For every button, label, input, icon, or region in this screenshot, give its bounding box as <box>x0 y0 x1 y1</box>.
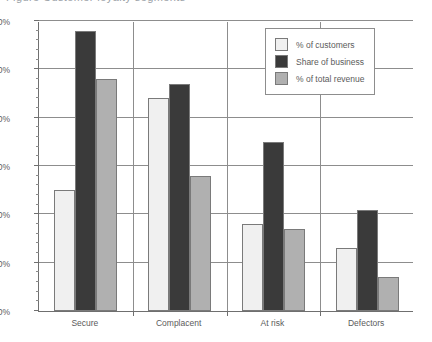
grouped-bar-chart: 0%10%20%30%40%50%60% SecureComplacentAt … <box>0 0 432 342</box>
y-tick-minor-32 <box>36 155 39 156</box>
legend-label-3: % of total revenue <box>296 74 365 84</box>
y-axis-label-40: 40% <box>0 114 10 124</box>
y-tick-major-0 <box>34 310 39 311</box>
y-tick-minor-28 <box>36 175 39 176</box>
y-tick-minor-46 <box>36 88 39 89</box>
y-axis-label-10: 10% <box>0 259 10 269</box>
bar-defectors-series-2 <box>357 210 378 312</box>
bar-complacent-series-3 <box>190 176 211 311</box>
x-tick-3 <box>320 311 321 316</box>
y-tick-major-30 <box>34 165 39 166</box>
chart-legend: % of customersShare of business% of tota… <box>265 28 375 95</box>
y-tick-minor-42 <box>36 107 39 108</box>
y-tick-major-60 <box>34 20 39 21</box>
y-tick-minor-58 <box>36 30 39 31</box>
bar-at-risk-series-2 <box>263 142 284 311</box>
y-tick-major-20 <box>34 213 39 214</box>
legend-swatch-1 <box>275 38 288 51</box>
bar-complacent-series-1 <box>148 98 169 311</box>
legend-item-3: % of total revenue <box>275 70 366 87</box>
y-tick-minor-48 <box>36 78 39 79</box>
x-axis-label-defectors: Defectors <box>348 318 384 328</box>
legend-item-2: Share of business <box>275 53 366 70</box>
y-axis-label-0: 0% <box>0 307 10 317</box>
bar-at-risk-series-1 <box>242 224 263 311</box>
y-tick-minor-6 <box>36 281 39 282</box>
x-axis-label-complacent: Complacent <box>156 318 201 328</box>
y-tick-minor-36 <box>36 136 39 137</box>
bar-at-risk-series-3 <box>284 229 305 311</box>
x-tick-2 <box>227 311 228 316</box>
legend-label-1: % of customers <box>296 40 355 50</box>
y-tick-minor-34 <box>36 146 39 147</box>
x-axis-label-secure: Secure <box>71 318 98 328</box>
bar-secure-series-1 <box>54 190 75 311</box>
y-axis-label-20: 20% <box>0 210 10 220</box>
x-tick-1 <box>133 311 134 316</box>
legend-swatch-3 <box>275 72 288 85</box>
group-separator-2 <box>227 22 228 311</box>
bar-secure-series-3 <box>96 79 117 311</box>
x-axis-label-at-risk: At risk <box>261 318 285 328</box>
y-tick-minor-22 <box>36 204 39 205</box>
y-tick-major-10 <box>34 262 39 263</box>
y-tick-minor-2 <box>36 300 39 301</box>
y-tick-minor-56 <box>36 39 39 40</box>
legend-label-2: Share of business <box>296 57 364 67</box>
y-tick-minor-18 <box>36 223 39 224</box>
y-tick-minor-38 <box>36 126 39 127</box>
y-tick-minor-44 <box>36 97 39 98</box>
y-axis-label-30: 30% <box>0 162 10 172</box>
legend-swatch-2 <box>275 55 288 68</box>
bar-secure-series-2 <box>75 31 96 311</box>
y-tick-major-40 <box>34 117 39 118</box>
bar-defectors-series-1 <box>336 248 357 311</box>
bar-defectors-series-3 <box>378 277 399 311</box>
y-tick-minor-12 <box>36 252 39 253</box>
y-tick-minor-24 <box>36 194 39 195</box>
y-tick-major-50 <box>34 68 39 69</box>
y-tick-minor-4 <box>36 291 39 292</box>
y-tick-minor-16 <box>36 233 39 234</box>
y-axis-label-60: 60% <box>0 17 10 27</box>
y-tick-minor-26 <box>36 184 39 185</box>
bar-complacent-series-2 <box>169 84 190 311</box>
group-separator-1 <box>133 22 134 311</box>
y-tick-minor-14 <box>36 242 39 243</box>
legend-item-1: % of customers <box>275 36 366 53</box>
y-axis-label-50: 50% <box>0 65 10 75</box>
gridline-60 <box>39 20 413 21</box>
y-tick-minor-52 <box>36 59 39 60</box>
y-tick-minor-8 <box>36 271 39 272</box>
y-tick-minor-54 <box>36 49 39 50</box>
